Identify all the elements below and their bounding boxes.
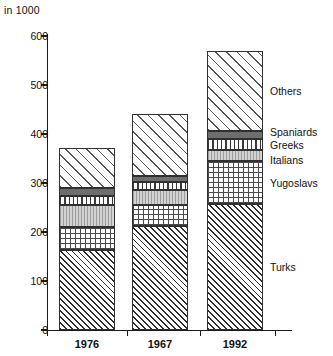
y-tick-label: 600 [14, 30, 48, 42]
bar-segment-greeks [207, 139, 263, 150]
bar-segment-spaniards [207, 131, 263, 139]
bar-segment-turks [132, 226, 188, 330]
y-tick-label: 0 [14, 324, 48, 336]
bar-segment-turks [207, 204, 263, 330]
bar-segment-spaniards [59, 188, 115, 195]
bar-segment-italians [207, 150, 263, 161]
y-tick-label: 200 [14, 226, 48, 238]
x-tick-mark [275, 330, 276, 336]
x-tick-mark [127, 330, 128, 336]
legend-label-yugoslavs: Yugoslavs [270, 177, 318, 189]
x-tick-mark [200, 330, 201, 336]
x-tick-label-1992: 1992 [205, 338, 265, 350]
bar-1976 [59, 148, 115, 330]
x-tick-label-1967: 1967 [130, 338, 190, 350]
bar-segment-yugoslavs [59, 227, 115, 251]
y-tick-label: 100 [14, 275, 48, 287]
unit-note: in 1000 [4, 4, 40, 16]
x-axis-line [47, 330, 292, 331]
bar-segment-others [132, 114, 188, 175]
bar-segment-yugoslavs [207, 161, 263, 204]
bar-segment-greeks [132, 182, 188, 190]
bar-segment-others [59, 148, 115, 188]
y-tick-label: 400 [14, 128, 48, 140]
bar-segment-italians [59, 205, 115, 227]
legend-label-spaniards: Spaniards [270, 126, 317, 138]
y-tick-label: 300 [14, 177, 48, 189]
bar-1967 [132, 114, 188, 330]
legend-label-greeks: Greeks [270, 139, 304, 151]
legend-label-others: Others [270, 85, 302, 97]
bar-segment-spaniards [132, 176, 188, 182]
bar-segment-greeks [59, 196, 115, 205]
stacked-bar-chart: in 1000 0100200300400500600 197619671992… [0, 0, 333, 356]
x-tick-label-1976: 1976 [57, 338, 117, 350]
bar-segment-italians [132, 190, 188, 205]
bar-segment-others [207, 51, 263, 131]
y-tick-label: 500 [14, 79, 48, 91]
x-tick-mark [47, 330, 48, 336]
legend-label-italians: Italians [270, 154, 303, 166]
bar-segment-turks [59, 250, 115, 330]
bar-1992 [207, 51, 263, 330]
bar-segment-yugoslavs [132, 205, 188, 227]
legend-label-turks: Turks [270, 261, 296, 273]
